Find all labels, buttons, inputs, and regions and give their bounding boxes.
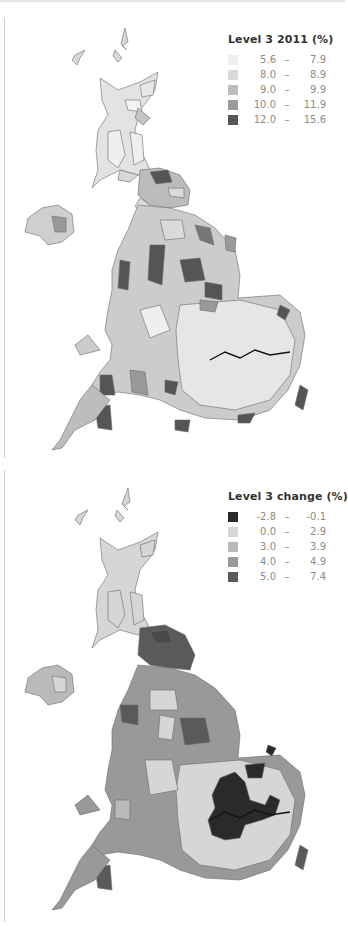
- legend-high: 4.9: [298, 556, 326, 567]
- legend-sep: –: [276, 511, 298, 522]
- legend-low: 12.0: [248, 114, 276, 125]
- legend-sep: –: [276, 54, 298, 65]
- legend-level3-2011: Level 3 2011 (%) 5.6 – 7.9 8.0 – 8.9 9.0…: [228, 33, 333, 127]
- legend-row: -2.8 – -0.1: [228, 509, 348, 524]
- legend-high: 7.4: [298, 571, 326, 582]
- legend-high: 9.9: [298, 84, 326, 95]
- legend-swatch: [228, 527, 238, 537]
- legend-level3-change: Level 3 change (%) -2.8 – -0.1 0.0 – 2.9…: [228, 490, 348, 584]
- legend-high: -0.1: [298, 511, 326, 522]
- legend-sep: –: [276, 114, 298, 125]
- map-panel-level3-change: Level 3 change (%) -2.8 – -0.1 0.0 – 2.9…: [0, 460, 345, 926]
- legend-swatch: [228, 85, 238, 95]
- legend-swatch: [228, 512, 238, 522]
- legend-high: 7.9: [298, 54, 326, 65]
- orkney-island-a: [75, 510, 88, 525]
- shetland-island: [121, 28, 128, 50]
- legend-swatch: [228, 542, 238, 552]
- legend-sep: –: [276, 69, 298, 80]
- legend-title: Level 3 change (%): [228, 490, 348, 503]
- legend-low: 4.0: [248, 556, 276, 567]
- legend-sep: –: [276, 541, 298, 552]
- legend-row: 5.6 – 7.9: [228, 52, 333, 67]
- legend-row: 8.0 – 8.9: [228, 67, 333, 82]
- orkney-island-b: [115, 510, 124, 522]
- orkney-island-a: [72, 50, 85, 65]
- legend-sep: –: [276, 556, 298, 567]
- legend-swatch: [228, 55, 238, 65]
- legend-title: Level 3 2011 (%): [228, 33, 333, 46]
- legend-low: 5.6: [248, 54, 276, 65]
- legend-row: 3.0 – 3.9: [228, 539, 348, 554]
- shetland-island: [122, 488, 130, 510]
- legend-swatch: [228, 115, 238, 125]
- orkney-island-b: [113, 50, 122, 62]
- legend-swatch: [228, 100, 238, 110]
- legend-row: 0.0 – 2.9: [228, 524, 348, 539]
- legend-low: 5.0: [248, 571, 276, 582]
- legend-low: 8.0: [248, 69, 276, 80]
- legend-swatch: [228, 557, 238, 567]
- legend-high: 15.6: [298, 114, 326, 125]
- legend-sep: –: [276, 526, 298, 537]
- legend-row: 4.0 – 4.9: [228, 554, 348, 569]
- legend-row: 9.0 – 9.9: [228, 82, 333, 97]
- legend-sep: –: [276, 84, 298, 95]
- legend-swatch: [228, 572, 238, 582]
- legend-high: 11.9: [298, 99, 326, 110]
- legend-low: 3.0: [248, 541, 276, 552]
- legend-row: 12.0 – 15.6: [228, 112, 333, 127]
- map-panel-level3-2011: Level 3 2011 (%) 5.6 – 7.9 8.0 – 8.9 9.0…: [0, 0, 345, 460]
- legend-low: 0.0: [248, 526, 276, 537]
- legend-high: 8.9: [298, 69, 326, 80]
- legend-swatch: [228, 70, 238, 80]
- legend-row: 10.0 – 11.9: [228, 97, 333, 112]
- legend-low: -2.8: [248, 511, 276, 522]
- legend-high: 3.9: [298, 541, 326, 552]
- legend-low: 10.0: [248, 99, 276, 110]
- legend-row: 5.0 – 7.4: [228, 569, 348, 584]
- legend-low: 9.0: [248, 84, 276, 95]
- legend-sep: –: [276, 99, 298, 110]
- legend-sep: –: [276, 571, 298, 582]
- legend-high: 2.9: [298, 526, 326, 537]
